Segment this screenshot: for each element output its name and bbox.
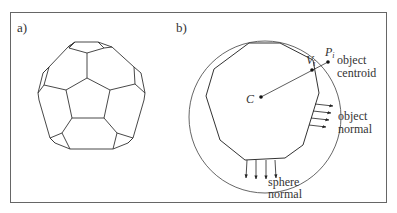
sphere-normal-label-2: normal	[268, 187, 303, 201]
vertex-point	[310, 68, 314, 72]
object-normal-label-2: normal	[338, 122, 373, 136]
panel-b: b) C Vi Pi object centroid object normal	[176, 20, 376, 201]
figure-border	[11, 13, 387, 203]
panel-a: a)	[17, 20, 145, 149]
soccer-ball-icon	[38, 42, 145, 149]
object-polygon	[206, 43, 319, 160]
object-centroid-label-2: centroid	[337, 66, 376, 80]
panel-a-label: a)	[17, 20, 27, 35]
radius-line	[261, 62, 328, 97]
vertex-label-sub: i	[313, 59, 315, 68]
figure: a)	[0, 0, 397, 213]
bounding-sphere	[189, 41, 341, 193]
point-label: Pi	[324, 45, 335, 60]
object-centroid-label-1: object	[337, 53, 367, 67]
object-normal-label-1: object	[338, 109, 368, 123]
vertex-label: Vi	[306, 53, 316, 68]
sphere-point	[326, 60, 330, 64]
point-label-sub: i	[332, 51, 334, 60]
center-label: C	[246, 92, 255, 106]
center-point	[259, 95, 263, 99]
panel-b-label: b)	[176, 20, 187, 35]
